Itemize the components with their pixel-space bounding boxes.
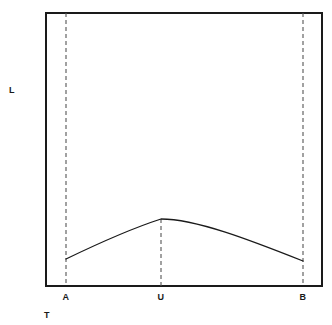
x-tick-label-a: A xyxy=(63,293,70,302)
x-tick-label-b: B xyxy=(300,293,307,302)
y-axis-label: L xyxy=(9,86,15,95)
figure-canvas: L T A U B xyxy=(0,0,332,325)
plot-area xyxy=(0,0,332,325)
x-tick-label-u: U xyxy=(158,293,165,302)
axes-frame xyxy=(46,13,322,286)
curve-l-of-t xyxy=(66,219,303,261)
x-axis-label: T xyxy=(44,311,50,320)
